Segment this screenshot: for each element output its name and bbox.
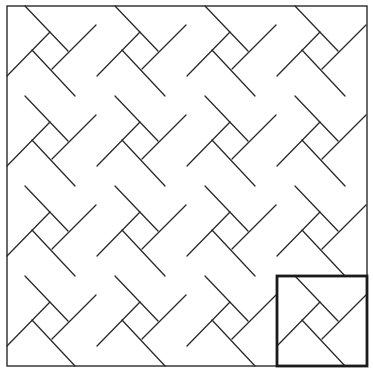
- seam-line: [205, 6, 248, 51]
- seam-line: [232, 115, 276, 159]
- seam-line: [32, 50, 75, 96]
- seam-line: [205, 186, 248, 231]
- seam-line: [322, 205, 366, 249]
- quilt-block: [97, 186, 186, 276]
- seam-line: [322, 295, 366, 339]
- seam-line: [25, 96, 68, 141]
- quilt-block: [7, 6, 96, 96]
- seam-line: [115, 276, 158, 321]
- seam-line: [32, 320, 75, 366]
- quilt-block: [7, 186, 96, 276]
- highlighted-block-outline: [277, 276, 367, 366]
- seam-line: [277, 122, 320, 166]
- quilt-block: [277, 96, 366, 186]
- seam-line: [115, 6, 158, 51]
- seam-line: [187, 302, 230, 346]
- quilt-block: [97, 276, 186, 366]
- quilt-block: [7, 96, 96, 186]
- seam-line: [205, 276, 248, 321]
- seam-line: [277, 32, 320, 76]
- seam-line: [122, 50, 165, 96]
- seam-line: [52, 295, 96, 339]
- seam-line: [232, 205, 276, 249]
- seam-line: [302, 230, 345, 276]
- seam-line: [295, 96, 338, 141]
- seam-line: [302, 50, 345, 96]
- seam-line: [97, 32, 140, 76]
- seam-line: [115, 186, 158, 231]
- seam-line: [205, 96, 248, 141]
- quilt-block: [97, 6, 186, 96]
- seam-line: [122, 140, 165, 186]
- seam-line: [277, 212, 320, 256]
- seam-line: [7, 32, 50, 76]
- seam-line: [115, 96, 158, 141]
- seam-line: [295, 186, 338, 231]
- quilt-block: [187, 96, 276, 186]
- quilt-block: [187, 186, 276, 276]
- seam-line: [97, 212, 140, 256]
- seam-line: [187, 212, 230, 256]
- quilt-diagram: [0, 0, 373, 373]
- quilt-block: [277, 186, 366, 276]
- seam-line: [97, 302, 140, 346]
- seam-line: [142, 25, 186, 69]
- seam-line: [232, 295, 276, 339]
- seam-line: [122, 230, 165, 276]
- seam-line: [52, 115, 96, 159]
- seam-line: [212, 320, 255, 366]
- seam-line: [7, 122, 50, 166]
- seam-line: [302, 320, 345, 366]
- seam-line: [7, 302, 50, 346]
- seam-line: [122, 320, 165, 366]
- quilt-block: [187, 276, 276, 366]
- seam-line: [212, 50, 255, 96]
- seam-line: [302, 140, 345, 186]
- seam-line: [277, 302, 320, 346]
- quilt-block: [97, 96, 186, 186]
- seam-line: [295, 6, 338, 51]
- seam-line: [142, 115, 186, 159]
- seam-line: [25, 276, 68, 321]
- seam-line: [32, 230, 75, 276]
- seam-line: [25, 186, 68, 231]
- seam-line: [232, 25, 276, 69]
- seam-line: [7, 212, 50, 256]
- seam-line: [142, 295, 186, 339]
- seam-line: [32, 140, 75, 186]
- quilt-block: [277, 276, 366, 366]
- seam-line: [212, 230, 255, 276]
- quilt-blocks: [7, 6, 366, 366]
- quilt-block: [187, 6, 276, 96]
- seam-line: [212, 140, 255, 186]
- quilt-block: [7, 276, 96, 366]
- seam-line: [97, 122, 140, 166]
- seam-line: [322, 25, 366, 69]
- seam-line: [295, 276, 338, 321]
- seam-line: [52, 25, 96, 69]
- seam-line: [322, 115, 366, 159]
- quilt-block: [277, 6, 366, 96]
- seam-line: [52, 205, 96, 249]
- seam-line: [187, 32, 230, 76]
- seam-line: [187, 122, 230, 166]
- seam-line: [142, 205, 186, 249]
- seam-line: [25, 6, 68, 51]
